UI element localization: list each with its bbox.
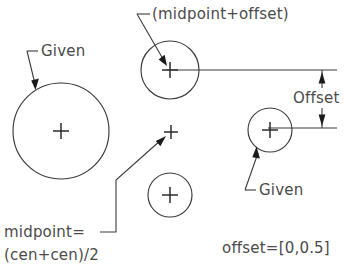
- given-left-label: Given: [41, 42, 85, 60]
- midpoint-formula-line1: midpoint=: [4, 223, 85, 241]
- midpoint-offset-arrowhead: [159, 55, 167, 66]
- given-right-center-cross: [262, 122, 278, 138]
- given-large-circle-center-cross: [53, 123, 69, 139]
- midpoint-formula-arrowhead: [156, 136, 166, 146]
- given-right-label: Given: [259, 181, 303, 199]
- midpoint-marker: [164, 125, 178, 139]
- given-left-arrowhead: [31, 79, 39, 90]
- lower-small-circle-center-cross: [162, 187, 178, 203]
- technical-diagram: Given (midpoint+offset) Offset: [0, 0, 345, 269]
- diagram-canvas: Given (midpoint+offset) Offset: [0, 0, 345, 269]
- given-left-leader: [27, 51, 39, 90]
- given-right-leader: [245, 147, 260, 191]
- midpoint-offset-label: (midpoint+offset): [152, 5, 289, 23]
- midpoint-formula-leader: [100, 136, 166, 232]
- offset-value-label: offset=[0,0.5]: [222, 239, 330, 257]
- midpoint-formula-line2: (cen+cen)/2: [4, 246, 99, 264]
- offset-arrowhead-bottom: [319, 115, 326, 127]
- offset-arrowhead-top: [319, 72, 326, 84]
- offset-dimension-label: Offset: [293, 89, 340, 107]
